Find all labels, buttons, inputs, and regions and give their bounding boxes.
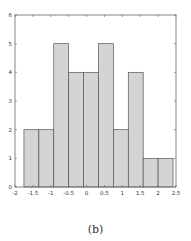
x-tick-label: -2 — [12, 190, 17, 196]
histogram-bar — [84, 72, 99, 187]
x-tick-label: 1.5 — [136, 190, 145, 196]
x-tick-label: -1.5 — [28, 190, 39, 196]
histogram-bar — [24, 130, 39, 187]
x-tick-label: 0 — [85, 190, 89, 196]
histogram-bar — [98, 44, 113, 187]
x-tick-label: -0.5 — [63, 190, 74, 196]
y-tick-label: 5 — [9, 41, 13, 47]
x-tick-label: 1 — [121, 190, 125, 196]
x-tick-label: -1 — [48, 190, 53, 196]
figure-caption: (b) — [0, 223, 191, 236]
y-tick-label: 0 — [9, 184, 13, 190]
histogram-bar — [143, 158, 158, 187]
y-tick-label: 1 — [9, 155, 13, 161]
histogram-bar — [54, 44, 69, 187]
y-tick-label: 2 — [9, 127, 13, 133]
histogram-bar — [158, 158, 173, 187]
x-tick-label: 2 — [156, 190, 160, 196]
x-tick-label: 0.5 — [100, 190, 109, 196]
histogram-bar — [128, 72, 143, 187]
histogram-bar — [113, 130, 128, 187]
histogram-chart: -2-1.5-1-0.500.511.522.5 0123456 — [0, 0, 191, 220]
y-tick-label: 3 — [9, 98, 13, 104]
histogram-bars — [24, 44, 173, 187]
y-tick-label: 4 — [9, 69, 13, 75]
histogram-bar — [39, 130, 54, 187]
x-tick-label: 2.5 — [172, 190, 181, 196]
histogram-bar — [69, 72, 84, 187]
y-tick-label: 6 — [9, 12, 13, 18]
